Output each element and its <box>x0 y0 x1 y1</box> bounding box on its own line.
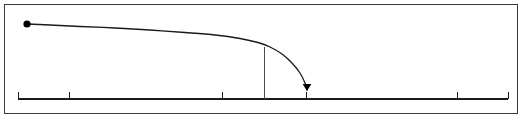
start-point-dot <box>23 20 30 27</box>
x-axis-ticks <box>19 92 509 99</box>
x-axis-group <box>18 92 509 99</box>
figure-root <box>0 0 525 120</box>
end-arrowhead-icon <box>303 84 312 91</box>
chart-canvas <box>0 0 525 120</box>
